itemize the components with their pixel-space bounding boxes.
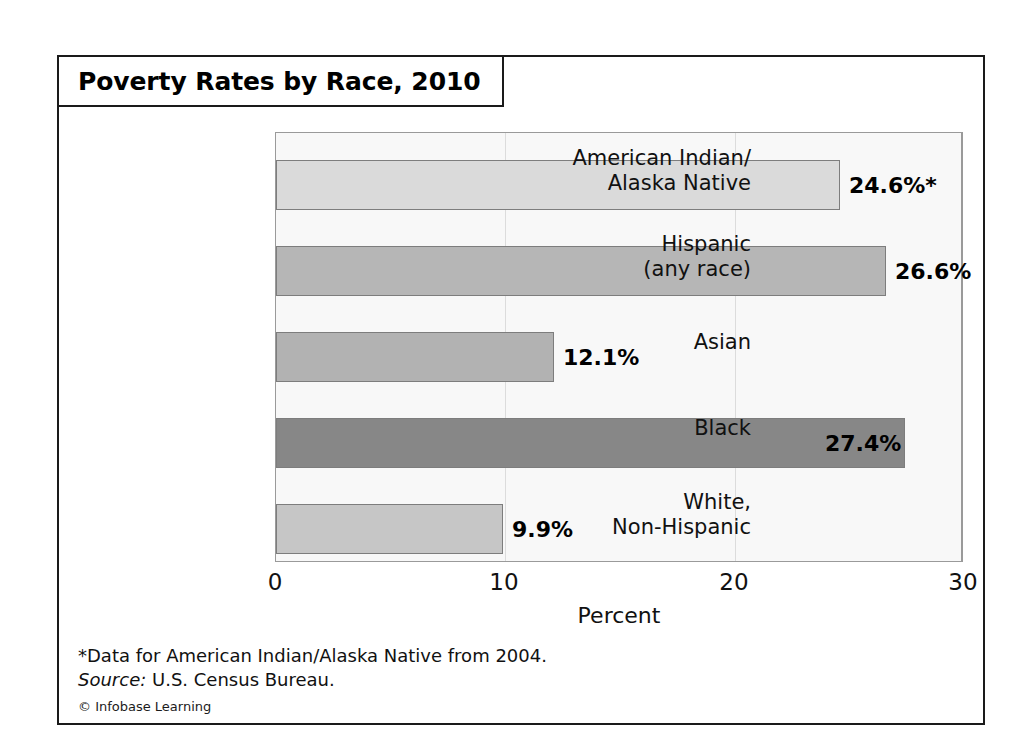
category-label-asian: Asian	[421, 330, 751, 355]
footnote-source: Source: U.S. Census Bureau.	[78, 668, 547, 692]
value-label-black: 27.4%	[825, 431, 901, 456]
chart-figure-frame: Poverty Rates by Race, 2010 24.6%* 26.6%…	[57, 55, 985, 725]
xtick-10: 10	[489, 569, 518, 595]
category-label-white-non-hispanic: White, Non-Hispanic	[421, 490, 751, 540]
category-label-hispanic-any-race: Hispanic (any race)	[421, 232, 751, 282]
value-label-american-indian-alaska-native: 24.6%*	[849, 173, 937, 198]
copyright-notice: © Infobase Learning	[78, 696, 547, 718]
footnote-data-note: *Data for American Indian/Alaska Native …	[78, 644, 547, 668]
footnote-source-label: Source:	[78, 669, 146, 690]
footnote-source-value: U.S. Census Bureau.	[152, 669, 335, 690]
footnotes: *Data for American Indian/Alaska Native …	[78, 644, 547, 718]
xtick-0: 0	[268, 569, 283, 595]
xtick-20: 20	[719, 569, 748, 595]
page-title: Poverty Rates by Race, 2010	[78, 67, 481, 96]
gridline-30	[961, 133, 962, 561]
chart-title-box: Poverty Rates by Race, 2010	[57, 55, 504, 107]
category-label-american-indian-alaska-native: American Indian/ Alaska Native	[421, 146, 751, 196]
category-label-black: Black	[421, 416, 751, 441]
xaxis-title: Percent	[275, 603, 963, 628]
xtick-30: 30	[948, 569, 977, 595]
value-label-hispanic-any-race: 26.6%	[895, 259, 971, 284]
